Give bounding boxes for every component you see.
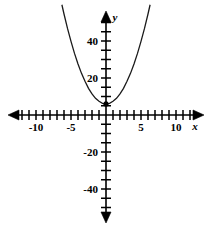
x-axis-left-arrow-icon [8, 110, 19, 120]
y-axis-tick-label: -40 [83, 183, 98, 195]
y-axis-up-arrow-icon [101, 11, 111, 22]
y-axis: 4020-20-40 [83, 11, 111, 223]
x-axis-right-arrow-icon [193, 110, 204, 120]
y-axis-tick-label: 20 [87, 72, 99, 84]
y-axis-tick-label: -20 [83, 146, 98, 158]
y-axis-tick-label: 40 [87, 35, 99, 47]
x-axis-label: x [191, 120, 198, 132]
x-axis-tick-label: 10 [171, 121, 183, 133]
vertex-point-marker [103, 101, 108, 106]
x-axis-tick-label: -10 [29, 121, 44, 133]
y-axis-label: y [111, 11, 118, 23]
x-axis-tick-label: 5 [138, 121, 144, 133]
x-axis-tick-label: -5 [66, 121, 76, 133]
coordinate-plane-svg: -10-5510 4020-20-40 x y [0, 0, 213, 233]
graph-figure: -10-5510 4020-20-40 x y [0, 0, 213, 233]
y-axis-down-arrow-icon [101, 212, 111, 223]
